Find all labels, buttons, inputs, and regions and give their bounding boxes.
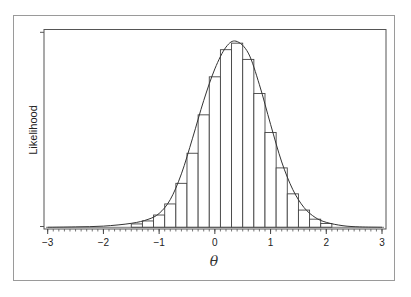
histogram-bar bbox=[243, 59, 254, 227]
histogram-bar bbox=[232, 43, 243, 227]
x-tick-label: 3 bbox=[379, 237, 385, 248]
x-axis-label: θ bbox=[210, 253, 219, 269]
histogram-bar bbox=[142, 221, 153, 227]
y-axis-ticks bbox=[40, 32, 44, 226]
histogram-bar bbox=[209, 77, 220, 227]
histogram-bar bbox=[265, 132, 276, 227]
histogram-bar bbox=[276, 168, 287, 227]
likelihood-histogram-chart: −3−2−10123 Likelihood θ bbox=[0, 0, 411, 297]
histogram-bar bbox=[220, 50, 231, 228]
x-tick-label: −3 bbox=[42, 237, 54, 248]
histogram-bar bbox=[287, 194, 298, 227]
x-tick-label: −2 bbox=[98, 237, 110, 248]
histogram-bar bbox=[131, 224, 142, 227]
histogram-bar bbox=[310, 219, 321, 227]
histogram-bar bbox=[321, 224, 332, 228]
x-tick-label: 2 bbox=[323, 237, 329, 248]
histogram-bar bbox=[198, 115, 209, 227]
y-axis-label: Likelihood bbox=[27, 105, 39, 155]
x-axis-tick-labels: −3−2−10123 bbox=[42, 237, 385, 248]
histogram-bars bbox=[131, 43, 332, 227]
histogram-bar bbox=[254, 93, 265, 227]
histogram-bar bbox=[298, 210, 309, 227]
histogram-bar bbox=[154, 215, 165, 227]
histogram-bar bbox=[165, 204, 176, 227]
histogram-bar bbox=[176, 183, 187, 227]
x-tick-label: 0 bbox=[212, 237, 218, 248]
x-tick-label: −1 bbox=[153, 237, 165, 248]
x-tick-label: 1 bbox=[268, 237, 274, 248]
histogram-bar bbox=[187, 153, 198, 227]
